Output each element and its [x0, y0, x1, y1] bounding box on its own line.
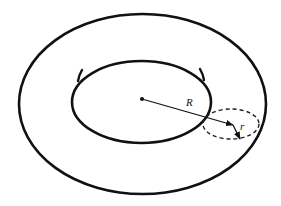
minor-radius-arrow [233, 125, 240, 139]
outer-boundary-ellipse [19, 14, 266, 194]
minor-radius-label: r [240, 120, 245, 132]
inner-left-tick [78, 70, 82, 81]
major-radius-label: R [185, 96, 193, 108]
inner-right-tick [200, 69, 204, 80]
torus-diagram: R r [0, 0, 281, 206]
